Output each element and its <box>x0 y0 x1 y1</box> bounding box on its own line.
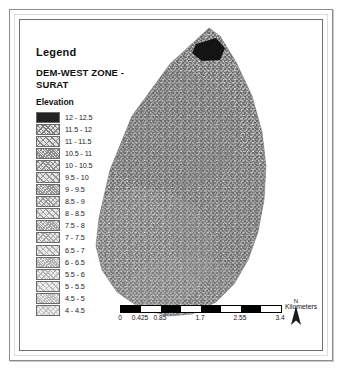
legend-swatch-label: 5.5 - 6 <box>65 270 85 279</box>
legend-swatch-label: 12 - 12.5 <box>65 113 92 122</box>
legend-row: 6.5 - 7 <box>36 244 128 256</box>
legend-swatch <box>36 305 60 316</box>
legend-class-list: 12 - 12.511.5 - 1211 - 11.510.5 - 1110 -… <box>36 111 128 317</box>
legend-swatch <box>36 220 60 231</box>
legend-swatch <box>36 148 60 159</box>
legend-swatch <box>36 269 60 280</box>
legend-swatch-label: 4 - 4.5 <box>65 306 85 315</box>
legend-row: 12 - 12.5 <box>36 111 128 123</box>
scalebar-segment <box>141 306 161 312</box>
legend-subheading: Elevation <box>36 97 128 107</box>
scalebar-tick-label: 0.85 <box>154 314 167 321</box>
legend-panel: Legend DEM-WEST ZONE - SURAT Elevation 1… <box>36 46 128 317</box>
legend-swatch-label: 6.5 - 7 <box>65 246 85 255</box>
legend-swatch-label: 4.5 - 5 <box>65 294 85 303</box>
legend-swatch <box>36 257 60 268</box>
legend-swatch <box>36 232 60 243</box>
legend-row: 5 - 5.5 <box>36 280 128 292</box>
legend-row: 9.5 - 10 <box>36 171 128 183</box>
legend-swatch-label: 10 - 10.5 <box>65 161 92 170</box>
scalebar-segment <box>261 306 281 312</box>
legend-row: 7.5 - 8 <box>36 220 128 232</box>
legend-swatch-label: 11 - 11.5 <box>65 137 91 146</box>
legend-row: 10.5 - 11 <box>36 147 128 159</box>
legend-swatch-label: 5 - 5.5 <box>65 282 85 291</box>
scalebar-track <box>120 305 282 313</box>
legend-swatch <box>36 208 60 219</box>
legend-swatch <box>36 281 60 292</box>
legend-swatch-label: 11.5 - 12 <box>65 125 92 134</box>
legend-swatch <box>36 124 60 135</box>
legend-row: 10 - 10.5 <box>36 159 128 171</box>
legend-row: 6 - 6.5 <box>36 256 128 268</box>
legend-row: 4 - 4.5 <box>36 305 128 317</box>
legend-swatch <box>36 245 60 256</box>
north-arrow-icon <box>288 305 304 327</box>
scalebar-segment <box>161 306 181 312</box>
legend-swatch-label: 9 - 9.5 <box>65 185 85 194</box>
map-page: Legend DEM-WEST ZONE - SURAT Elevation 1… <box>0 0 343 371</box>
legend-swatch <box>36 184 60 195</box>
legend-row: 8 - 8.5 <box>36 208 128 220</box>
scalebar-tick-label: 1.7 <box>195 314 204 321</box>
legend-row: 4.5 - 5 <box>36 292 128 304</box>
legend-row: 7 - 7.5 <box>36 232 128 244</box>
legend-row: 11 - 11.5 <box>36 135 128 147</box>
scalebar-segment <box>121 306 141 312</box>
legend-swatch-label: 8 - 8.5 <box>65 209 85 218</box>
legend-heading: Legend <box>36 46 128 58</box>
legend-swatch-label: 7 - 7.5 <box>65 233 85 242</box>
legend-swatch <box>36 136 60 147</box>
scalebar: 00.4250.851.72.553.4 <box>120 305 282 324</box>
legend-row: 11.5 - 12 <box>36 123 128 135</box>
legend-layer-title: DEM-WEST ZONE - SURAT <box>36 67 128 90</box>
map-canvas[interactable]: Legend DEM-WEST ZONE - SURAT Elevation 1… <box>20 20 322 350</box>
legend-swatch <box>36 172 60 183</box>
scalebar-segment <box>181 306 201 312</box>
scalebar-tick-label: 0.425 <box>132 314 149 321</box>
legend-row: 8.5 - 9 <box>36 196 128 208</box>
scalebar-segment <box>221 306 241 312</box>
north-arrow-label: N <box>286 298 306 305</box>
legend-swatch-label: 9.5 - 10 <box>65 173 89 182</box>
legend-swatch <box>36 196 60 207</box>
scalebar-tick-label: 2.55 <box>234 314 247 321</box>
legend-swatch-label: 7.5 - 8 <box>65 221 85 230</box>
legend-swatch <box>36 112 60 123</box>
scalebar-segment <box>201 306 221 312</box>
legend-row: 9 - 9.5 <box>36 184 128 196</box>
legend-swatch-label: 8.5 - 9 <box>65 197 85 206</box>
scalebar-segment <box>241 306 261 312</box>
north-arrow: N <box>286 298 306 328</box>
scalebar-labels: 00.4250.851.72.553.4 <box>120 314 280 324</box>
scalebar-tick-label: 0 <box>118 314 122 321</box>
legend-swatch-label: 10.5 - 11 <box>65 149 92 158</box>
legend-swatch <box>36 160 60 171</box>
legend-swatch <box>36 293 60 304</box>
legend-swatch-label: 6 - 6.5 <box>65 258 85 267</box>
scalebar-tick-label: 3.4 <box>275 314 284 321</box>
legend-row: 5.5 - 6 <box>36 268 128 280</box>
